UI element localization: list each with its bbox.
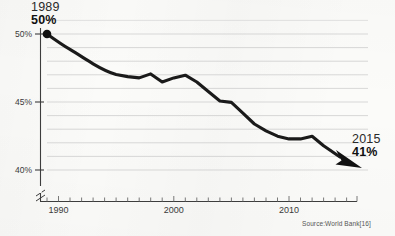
y-axis-ticks	[35, 34, 44, 170]
source-note: Source:World Bank[16]	[302, 220, 371, 227]
annotation-start: 1989 50%	[31, 1, 60, 27]
annotation-start-value: 50%	[31, 14, 60, 27]
annotation-end-value: 41%	[352, 146, 381, 159]
annotation-end: 2015 41%	[352, 133, 381, 159]
x-axis-minor-ticks	[47, 196, 357, 202]
y-tick-label-40: 40%	[4, 165, 32, 175]
start-point-marker	[43, 30, 52, 39]
y-tick-label-50: 50%	[4, 29, 32, 39]
x-tick-label-1990: 1990	[39, 205, 79, 215]
chart-page: 50% 45% 40% 1990 2000 2010 1989 50% 2015…	[0, 0, 395, 236]
gridlines	[47, 20, 368, 170]
y-tick-label-45: 45%	[4, 97, 32, 107]
x-tick-label-2010: 2010	[269, 205, 309, 215]
line-chart-plot	[0, 0, 395, 236]
y-axis	[36, 28, 45, 201]
x-tick-label-2000: 2000	[154, 205, 194, 215]
data-series-line	[47, 34, 340, 157]
